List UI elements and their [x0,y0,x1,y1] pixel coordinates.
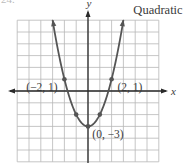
graph-title: Quadratic [133,3,183,17]
x-axis-label: x [170,85,176,97]
point-label-0-neg3: (0, −3) [92,128,124,141]
plot-point [86,124,91,129]
plot-point [98,112,103,117]
y-axis-up-arrow-icon [86,10,91,17]
quadratic-graph: 24. y Quadratic x (−2, 1) (2, 1) (0, −3) [0,0,186,163]
plot-point [109,77,114,82]
plot-point [74,112,79,117]
exercise-number: 24. [1,0,15,5]
point-label-neg2-1: (−2, 1) [26,81,58,94]
y-axis-label: y [86,0,92,9]
x-axis-left-arrow-icon [8,89,15,94]
plot-point [62,77,67,82]
x-axis-right-arrow-icon [161,89,168,94]
point-label-2-1: (2, 1) [118,81,143,94]
